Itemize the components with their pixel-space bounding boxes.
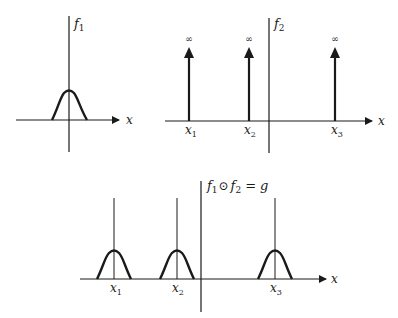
infinity-label: ∞ bbox=[245, 34, 253, 44]
panel-f2: f2 x ∞ x1 ∞ x2 ∞ x3 bbox=[165, 16, 385, 153]
peak-x2: x2 bbox=[160, 198, 194, 297]
g-title: f1⊙f2=g bbox=[206, 178, 268, 195]
arrow-up-icon bbox=[244, 47, 254, 58]
f2-x-axis-label: x bbox=[378, 114, 385, 128]
f2-label: f2 bbox=[273, 16, 285, 33]
f1-label: f1 bbox=[73, 16, 85, 33]
peak-x1: x1 bbox=[97, 198, 131, 297]
infinity-label: ∞ bbox=[185, 34, 193, 44]
panel-g: f1⊙f2=g x x1 x2 x3 bbox=[80, 178, 338, 312]
arrow-up-icon bbox=[184, 47, 194, 58]
arrow-up-icon bbox=[330, 47, 340, 58]
f1-x-axis-label: x bbox=[126, 113, 133, 127]
peak-label: x1 bbox=[110, 281, 122, 297]
impulse-x3: ∞ x3 bbox=[330, 34, 343, 139]
impulse-label: x3 bbox=[331, 123, 343, 139]
g-x-axis-label: x bbox=[331, 272, 338, 286]
convolution-diagram: f1 x f2 x ∞ x1 ∞ x2 ∞ x3 bbox=[0, 0, 398, 318]
peak-x3: x3 bbox=[258, 198, 292, 297]
panel-f1: f1 x bbox=[16, 16, 133, 152]
impulse-x2: ∞ x2 bbox=[244, 34, 256, 139]
impulse-x1: ∞ x1 bbox=[184, 34, 197, 139]
impulse-label: x2 bbox=[244, 123, 256, 139]
infinity-label: ∞ bbox=[331, 34, 339, 44]
impulse-label: x1 bbox=[185, 123, 197, 139]
peak-label: x2 bbox=[172, 281, 184, 297]
peak-label: x3 bbox=[270, 281, 282, 297]
